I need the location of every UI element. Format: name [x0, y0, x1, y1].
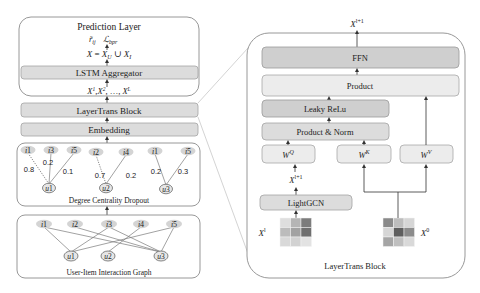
layertrans-panel-caption: LayerTrans Block [324, 261, 386, 271]
product-bar: Product [262, 75, 459, 96]
loss-subscript: bpr [109, 39, 118, 45]
edge-weight: 0.2 [126, 171, 136, 180]
edge-weight: 0.2 [43, 158, 53, 167]
embedding-label: Embedding [88, 125, 130, 135]
matrix-cell [394, 237, 405, 247]
matrix-cell [404, 218, 415, 228]
graph-item-label-i1: i1 [41, 220, 47, 229]
graph-user-label-u2: u2 [104, 252, 112, 261]
lightgcn-label: LightGCN [288, 198, 324, 208]
matrix-cell [404, 237, 415, 247]
architecture-diagram: Prediction Layer r̃ij ℒbpr X = XU ∪ XI L… [0, 0, 480, 293]
matrix-cell [291, 218, 302, 228]
edge-weight: 0.1 [63, 167, 73, 176]
item-label-i3: i3 [48, 146, 54, 155]
matrix-cell [280, 228, 291, 238]
matrix-cell [291, 228, 302, 238]
ffn-label: FFN [352, 53, 368, 63]
matrix-cell [394, 218, 405, 228]
item-label-i5: i5 [185, 147, 191, 156]
block-output-label: Xl+1 [349, 18, 364, 29]
layertrans-block-bar[interactable]: LayerTrans Block [21, 103, 198, 117]
item-label-i1: i1 [152, 147, 158, 156]
layertrans-block-label: LayerTrans Block [77, 106, 142, 116]
prediction-layer-title: Prediction Layer [77, 22, 141, 32]
lightgcn-bar: LightGCN [260, 195, 352, 210]
graph-item-label-i4: i4 [138, 220, 144, 229]
wk-box: WK [337, 145, 391, 163]
edge-weight: 0.7 [95, 171, 105, 180]
matrix-cell [404, 228, 415, 238]
interaction-graph-caption: User-Item Interaction Graph [66, 268, 151, 277]
matrix-cell [383, 228, 394, 238]
user-label-u3: u3 [162, 185, 170, 194]
matrix-cell [291, 237, 302, 247]
matrix-cell [301, 218, 312, 228]
ffn-bar: FFN [262, 47, 459, 68]
product-label: Product [347, 81, 374, 91]
lstm-aggregator-bar: LSTM Aggregator [21, 66, 198, 79]
graph-user-label-u3: u3 [157, 252, 165, 261]
matrix-cell [383, 237, 394, 247]
matrix-cell [301, 237, 312, 247]
user-label-u1: u1 [45, 184, 53, 193]
input-matrix-xl [280, 218, 312, 247]
item-label-i1: i1 [25, 146, 31, 155]
graph-item-label-i2: i2 [72, 220, 78, 229]
leaky-relu-bar: Leaky ReLu [262, 100, 389, 117]
item-label-i2: i2 [93, 148, 99, 157]
matrix-cell [383, 218, 394, 228]
matrix-cell [280, 237, 291, 247]
embedding-bar: Embedding [21, 123, 198, 136]
matrix-cell [301, 228, 312, 238]
wv-box: WV [400, 145, 453, 163]
graph-item-label-i5: i5 [171, 220, 177, 229]
matrix-cell [394, 228, 405, 238]
rating-subscript: ij [92, 39, 96, 45]
wq-box: WQ [262, 145, 315, 163]
matrix-cell [280, 218, 291, 228]
edge-weight: 0.3 [178, 167, 188, 176]
graph-item-label-i3: i3 [106, 220, 112, 229]
product-norm-label: Product & Norm [296, 127, 354, 137]
graph-user-label-u1: u1 [67, 252, 75, 261]
item-label-i4: i4 [123, 148, 129, 157]
item-label-i5: i5 [71, 146, 77, 155]
lstm-aggregator-label: LSTM Aggregator [76, 68, 143, 78]
product-norm-bar: Product & Norm [262, 123, 389, 140]
edge-weight: 0.8 [24, 165, 34, 174]
edge-weight: 0.2 [151, 167, 161, 176]
input-matrix-x0 [383, 218, 415, 247]
user-label-u2: u2 [102, 184, 110, 193]
leaky-relu-label: Leaky ReLu [304, 104, 347, 114]
dropout-caption: Degree Centrality Dropout [69, 196, 150, 205]
zoom-cone-lower [198, 117, 254, 270]
